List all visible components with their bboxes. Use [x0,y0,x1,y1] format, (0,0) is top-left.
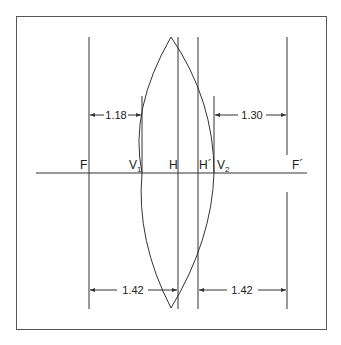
label-v2: V2 [217,158,230,174]
dim-label-front-focal-length: 1.42 [122,284,143,296]
dim-label-front-focal-distance: 1.18 [105,109,126,121]
label-h-prime: H´ [199,158,212,172]
dim-label-back-focal-distance: 1.30 [241,109,262,121]
label-h: H [169,158,178,172]
dim-label-back-focal-length: 1.42 [231,284,252,296]
label-f: F [80,158,87,172]
label-f-prime: F´ [292,158,303,172]
thick-lens-diagram: 1.18 1.30 1.42 1.42 F V1 H H´ V2 F´ [0,0,341,345]
